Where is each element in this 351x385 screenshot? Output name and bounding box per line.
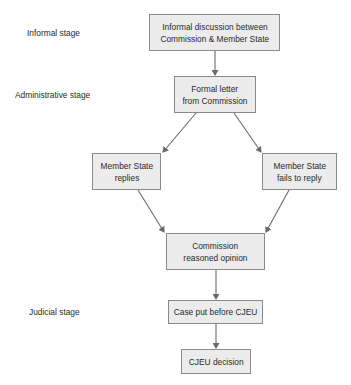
node-text-line: replies: [114, 172, 139, 184]
arrow-letter-to-fails: [234, 113, 261, 152]
node-formal-letter: Formal letter from Commission: [174, 76, 256, 113]
connector-arrows: [0, 0, 351, 385]
node-text-line: fails to reply: [277, 172, 322, 184]
node-text-line: Informal discussion between: [162, 21, 267, 33]
node-text-line: Member State: [100, 160, 153, 172]
node-reasoned-opinion: Commission reasoned opinion: [166, 233, 265, 270]
node-case-before-cjeu: Case put before CJEU: [168, 300, 263, 324]
node-member-state-fails: Member State fails to reply: [262, 153, 337, 190]
node-text-line: Member State: [273, 160, 326, 172]
arrow-letter-to-replies: [163, 113, 196, 152]
node-text-line: Commission: [192, 240, 238, 252]
node-text-line: Commission & Member State: [160, 33, 269, 45]
node-cjeu-decision: CJEU decision: [181, 349, 251, 374]
node-text-line: CJEU decision: [189, 356, 244, 368]
node-informal-discussion: Informal discussion between Commission &…: [149, 14, 280, 51]
node-member-state-replies: Member State replies: [92, 153, 161, 190]
node-text-line: Formal letter: [192, 83, 239, 95]
arrow-fails-to-opinion: [266, 190, 289, 232]
node-text-line: from Commission: [182, 95, 247, 107]
node-text-line: Case put before CJEU: [174, 306, 258, 318]
arrow-replies-to-opinion: [138, 190, 164, 232]
node-text-line: reasoned opinion: [183, 252, 247, 264]
